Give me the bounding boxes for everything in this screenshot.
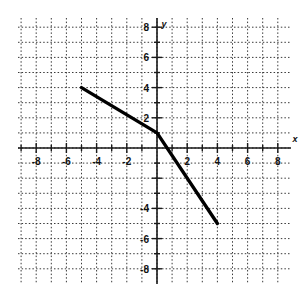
x-tick-label: 8 <box>275 156 281 167</box>
x-tick-label: -8 <box>32 156 41 167</box>
y-tick-label: 4 <box>143 83 149 94</box>
x-tick-label: -2 <box>122 156 131 167</box>
y-tick-label: -6 <box>140 234 149 245</box>
y-tick-label: 2 <box>143 113 149 124</box>
y-tick-label: -8 <box>140 264 149 275</box>
coordinate-plane-figure: -8-6-4-22468 8642-4-6-8 x y <box>0 0 307 300</box>
graph-canvas: -8-6-4-22468 8642-4-6-8 x y <box>0 0 307 300</box>
x-axis-label: x <box>291 134 298 144</box>
x-tick-label: 2 <box>184 156 190 167</box>
y-tick-label: 6 <box>143 52 149 63</box>
x-tick-label: 4 <box>215 156 221 167</box>
x-tick-label: -6 <box>62 156 71 167</box>
x-tick-label: 6 <box>245 156 251 167</box>
function-graph-line <box>82 88 218 224</box>
y-tick-label: -4 <box>140 203 149 214</box>
x-tick-label: -4 <box>92 156 101 167</box>
y-axis-label: y <box>160 19 167 29</box>
y-tick-label: 8 <box>143 22 149 33</box>
grid-vertical-lines <box>21 18 278 283</box>
